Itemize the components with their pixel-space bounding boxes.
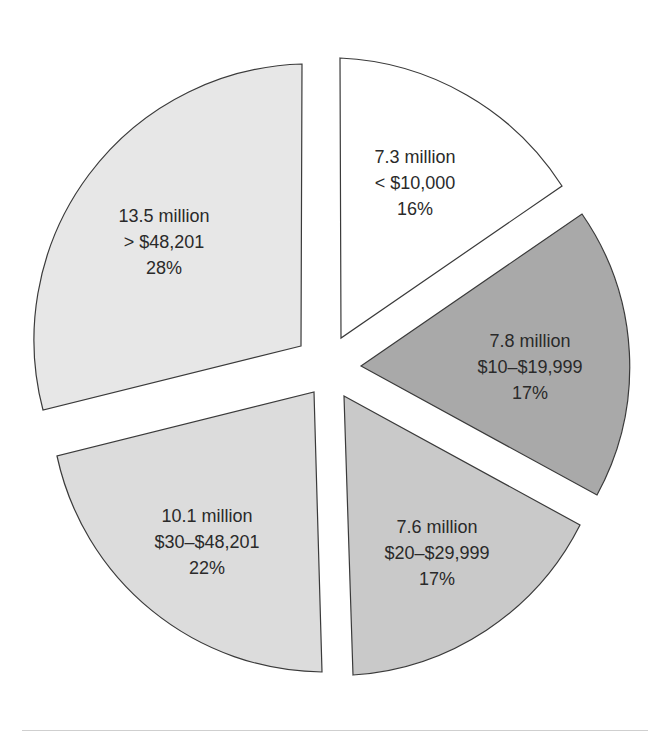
slice-count: 7.6 million	[384, 514, 489, 540]
label-30-48201: 10.1 million $30–$48,201 22%	[154, 503, 259, 581]
bottom-divider	[22, 730, 648, 731]
slice-range: < $10,000	[374, 170, 455, 196]
slice-range: $20–$29,999	[384, 540, 489, 566]
slice-range: $10–$19,999	[477, 354, 582, 380]
slice-percent: 17%	[384, 566, 489, 592]
slice-count: 7.8 million	[477, 328, 582, 354]
slice-percent: 22%	[154, 555, 259, 581]
slice-count: 7.3 million	[374, 144, 455, 170]
label-under-10000: 7.3 million < $10,000 16%	[374, 144, 455, 222]
slice-percent: 16%	[374, 196, 455, 222]
slice-percent: 28%	[118, 255, 209, 281]
slice-percent: 17%	[477, 380, 582, 406]
label-10-19999: 7.8 million $10–$19,999 17%	[477, 328, 582, 406]
slice-range: > $48,201	[118, 229, 209, 255]
label-over-48201: 13.5 million > $48,201 28%	[118, 203, 209, 281]
label-20-29999: 7.6 million $20–$29,999 17%	[384, 514, 489, 592]
slice-range: $30–$48,201	[154, 529, 259, 555]
slice-count: 13.5 million	[118, 203, 209, 229]
slice-count: 10.1 million	[154, 503, 259, 529]
